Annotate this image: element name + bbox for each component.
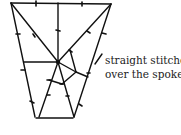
annotation-leader — [95, 54, 102, 64]
hub — [57, 61, 60, 64]
spokes — [11, 3, 111, 117]
web-stitches — [49, 50, 88, 84]
annotation-line-1: straight stitches — [105, 53, 181, 67]
annotation-label: straight stitches over the spokes — [105, 53, 181, 81]
annotation-line-2: over the spokes — [105, 67, 181, 81]
